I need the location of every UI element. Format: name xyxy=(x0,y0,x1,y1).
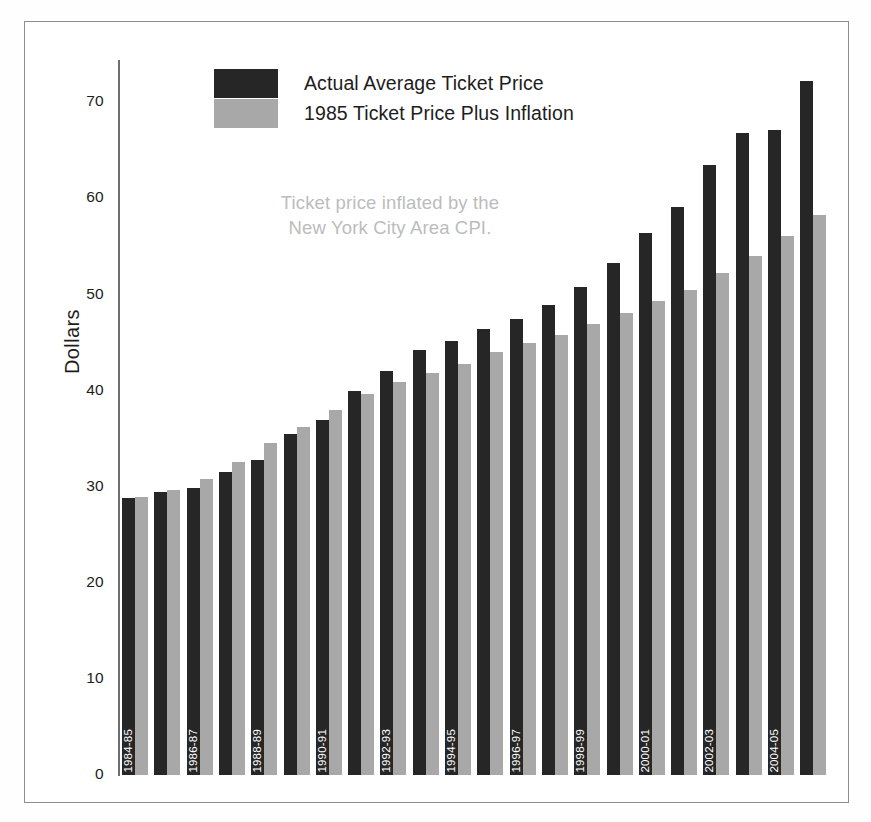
bar-inflation xyxy=(458,364,471,775)
annotation-line-1: Ticket price inflated by the xyxy=(232,190,548,215)
bar-actual xyxy=(671,207,684,775)
bar-group: 2004-05 xyxy=(768,130,794,775)
bar-group: 1984-85 xyxy=(122,497,148,775)
bar-inflation xyxy=(716,273,729,775)
bar-inflation xyxy=(684,290,697,775)
x-axis-label: 1998-99 xyxy=(574,729,587,773)
bar-group: 1996-97 xyxy=(510,319,536,775)
bar-inflation xyxy=(232,462,245,775)
x-axis-label: 1992-93 xyxy=(380,729,393,773)
bar-inflation xyxy=(426,373,439,775)
x-axis-label: 2002-03 xyxy=(703,729,716,773)
x-axis-label: 1984-85 xyxy=(122,729,135,773)
bar-inflation xyxy=(620,313,633,775)
bar-actual xyxy=(413,350,426,775)
bar-inflation xyxy=(297,427,310,775)
bar-inflation xyxy=(555,335,568,775)
bar-group: 1986-87 xyxy=(187,479,213,775)
x-axis-label: 1988-89 xyxy=(251,729,264,773)
bar-inflation xyxy=(523,343,536,775)
bar-actual: 2000-01 xyxy=(639,233,652,775)
legend-label: 1985 Ticket Price Plus Inflation xyxy=(304,102,574,125)
bar-actual xyxy=(542,305,555,775)
bar-actual: 2002-03 xyxy=(703,165,716,775)
chart-figure: Dollars 010203040506070 1984-851986-8719… xyxy=(0,0,871,822)
legend-label: Actual Average Ticket Price xyxy=(304,72,544,95)
bar-group xyxy=(736,133,762,775)
bar-actual xyxy=(154,492,167,775)
bar-group xyxy=(219,462,245,775)
bar-group xyxy=(607,263,633,775)
bar-inflation xyxy=(490,352,503,775)
bar-group: 2002-03 xyxy=(703,165,729,775)
bar-actual: 1984-85 xyxy=(122,498,135,775)
bar-actual xyxy=(736,133,749,775)
bar-inflation xyxy=(749,256,762,775)
bar-actual: 1986-87 xyxy=(187,488,200,775)
x-axis-label: 2004-05 xyxy=(768,729,781,773)
x-axis-label: 1986-87 xyxy=(187,729,200,773)
bar-inflation xyxy=(264,443,277,775)
bar-inflation xyxy=(781,236,794,775)
x-axis-label: 2000-01 xyxy=(639,729,652,773)
bar-inflation xyxy=(329,410,342,775)
bar-group xyxy=(284,427,310,775)
legend: Actual Average Ticket Price1985 Ticket P… xyxy=(214,68,574,128)
chart-annotation: Ticket price inflated by the New York Ci… xyxy=(232,190,548,240)
bar-group xyxy=(154,490,180,775)
bar-actual: 2004-05 xyxy=(768,130,781,775)
bar-inflation xyxy=(587,324,600,775)
bar-actual: 1994-95 xyxy=(445,341,458,775)
x-axis-label: 1990-91 xyxy=(316,729,329,773)
x-axis-label: 1996-97 xyxy=(510,729,523,773)
bar-group: 1990-91 xyxy=(316,410,342,775)
plot-area: Dollars 010203040506070 1984-851986-8719… xyxy=(0,0,871,822)
bar-group: 1998-99 xyxy=(574,287,600,775)
legend-item: Actual Average Ticket Price xyxy=(214,68,574,98)
bar-inflation xyxy=(393,382,406,775)
bar-actual: 1998-99 xyxy=(574,287,587,775)
bar-group: 2000-01 xyxy=(639,233,665,775)
bar-inflation xyxy=(361,394,374,775)
legend-item: 1985 Ticket Price Plus Inflation xyxy=(214,98,574,128)
x-axis-label: 1994-95 xyxy=(445,729,458,773)
bar-group xyxy=(542,305,568,775)
bar-group xyxy=(671,207,697,775)
bar-actual xyxy=(800,81,813,775)
bar-actual: 1990-91 xyxy=(316,420,329,775)
bar-actual xyxy=(607,263,620,775)
bar-group: 1992-93 xyxy=(380,371,406,775)
legend-swatch-actual xyxy=(214,69,278,98)
bar-inflation xyxy=(135,497,148,775)
bar-actual xyxy=(348,391,361,775)
bar-inflation xyxy=(652,301,665,775)
annotation-line-2: New York City Area CPI. xyxy=(232,215,548,240)
bar-inflation xyxy=(200,479,213,775)
bar-group: 1994-95 xyxy=(445,341,471,775)
bar-actual xyxy=(284,434,297,775)
bar-group: 1988-89 xyxy=(251,443,277,775)
bar-group xyxy=(413,350,439,775)
bar-actual xyxy=(477,329,490,775)
bar-inflation xyxy=(813,215,826,775)
bar-group xyxy=(348,391,374,775)
bar-actual: 1996-97 xyxy=(510,319,523,775)
bar-group xyxy=(800,81,826,775)
bar-group xyxy=(477,329,503,775)
bar-inflation xyxy=(167,490,180,775)
bar-actual: 1988-89 xyxy=(251,460,264,775)
legend-swatch-inflation xyxy=(214,99,278,128)
bar-actual: 1992-93 xyxy=(380,371,393,775)
bar-actual xyxy=(219,472,232,775)
